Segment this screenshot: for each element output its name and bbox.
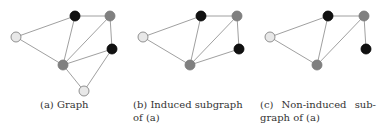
edge [270, 37, 317, 65]
edge [270, 16, 328, 37]
node-light [79, 86, 89, 96]
edge [317, 16, 364, 65]
subfigure-c [265, 11, 371, 70]
node-black [107, 44, 117, 54]
node-black [234, 44, 244, 54]
node-light [11, 32, 21, 42]
caption-graph: (a) Graph [40, 98, 120, 111]
node-gray [232, 11, 242, 21]
node-gray [359, 11, 369, 21]
edge [16, 37, 63, 65]
caption-induced-subgraph: (b) Induced subgraph of (a) [133, 98, 249, 124]
node-black [70, 11, 80, 21]
node-gray [312, 60, 322, 70]
node-gray [105, 11, 115, 21]
subfigure-b [138, 11, 244, 70]
node-light [138, 32, 148, 42]
edge [16, 16, 75, 37]
node-black [323, 11, 333, 21]
edge [143, 16, 201, 37]
edge [317, 16, 328, 65]
node-black [361, 44, 371, 54]
caption-non-induced-subgraph: (c) Non-induced sub-graph of (a) [260, 98, 376, 124]
node-gray [185, 60, 195, 70]
edge [143, 37, 190, 65]
edge [190, 16, 201, 65]
edge [63, 16, 75, 65]
edge [84, 49, 112, 91]
node-light [265, 32, 275, 42]
node-black [196, 11, 206, 21]
node-gray [58, 60, 68, 70]
subfigure-a [11, 11, 117, 96]
